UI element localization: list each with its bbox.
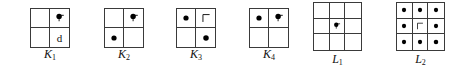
grid-cell: [330, 19, 346, 35]
grid-cell: [397, 3, 413, 19]
caption-subscript: 4: [271, 53, 275, 62]
grid-cell: [250, 28, 269, 47]
grid-cell: [314, 19, 330, 35]
figure-caption-l2: L2: [396, 52, 445, 67]
figure-k2: K2: [104, 0, 144, 68]
figure-caption-l1: L1: [313, 52, 362, 67]
grid-k3: [176, 8, 216, 48]
grid-k1: d: [30, 8, 70, 48]
figure-l1: L1: [313, 0, 362, 68]
caption-subscript: 2: [126, 53, 130, 62]
grid-cell: d: [50, 28, 69, 47]
grid-cell: [31, 9, 50, 28]
grid-cell: [397, 19, 413, 35]
grid-cell: [428, 19, 444, 35]
caption-base: K: [44, 47, 52, 61]
caption-base: K: [118, 47, 126, 61]
grid-cell: [196, 28, 215, 47]
figure-caption-k3: K3: [176, 47, 216, 62]
grid-k4: [249, 8, 289, 48]
grid-cell: [50, 9, 69, 28]
dot-icon: [428, 3, 444, 18]
dot-flag-icon: [124, 9, 143, 27]
caption-base: L: [415, 52, 422, 66]
corner-hook-icon: [413, 19, 428, 34]
caption-base: K: [190, 47, 198, 61]
dot-icon: [428, 19, 444, 34]
grid-cell: [105, 9, 124, 28]
grid-cell: [397, 34, 413, 50]
dot-icon: [177, 9, 195, 27]
grid-cell: [124, 28, 143, 47]
grid-cell: [330, 3, 346, 19]
dot-icon: [105, 28, 123, 47]
dot-flag-icon: [330, 19, 345, 34]
dot-icon: [413, 34, 428, 50]
grid-cell: [196, 9, 215, 28]
dot-icon: [413, 3, 428, 18]
caption-base: L: [332, 52, 339, 66]
caption-subscript: 1: [339, 58, 343, 67]
grid-k2: [104, 8, 144, 48]
caption-subscript: 2: [422, 58, 426, 67]
dot-icon: [428, 34, 444, 50]
figure-k3: K3: [176, 0, 216, 68]
corner-hook-icon: [196, 9, 215, 27]
grid-cell: [413, 34, 429, 50]
figure-caption-k1: K1: [30, 47, 70, 62]
grid-cell: [345, 19, 361, 35]
grid-cell: [177, 9, 196, 28]
dot-icon: [250, 9, 268, 27]
grid-cell: [413, 3, 429, 19]
dot-flag-icon: [50, 9, 69, 27]
figure-row: dK1K2K3K4L1L2: [0, 0, 461, 68]
cell-letter: d: [57, 32, 63, 43]
figure-l2: L2: [396, 0, 445, 68]
dot-icon: [397, 34, 412, 50]
caption-subscript: 1: [52, 53, 56, 62]
grid-cell: [428, 34, 444, 50]
grid-cell: [269, 9, 288, 28]
figure-k4: K4: [249, 0, 289, 68]
dot-flag-icon: [269, 9, 288, 27]
grid-cell: [413, 19, 429, 35]
grid-cell: [314, 3, 330, 19]
caption-base: K: [263, 47, 271, 61]
grid-cell: [250, 9, 269, 28]
grid-cell: [330, 34, 346, 50]
grid-cell: [345, 3, 361, 19]
grid-cell: [269, 28, 288, 47]
dot-icon: [397, 3, 412, 18]
figure-caption-k4: K4: [249, 47, 289, 62]
figure-k1: dK1: [30, 0, 70, 68]
grid-cell: [428, 3, 444, 19]
grid-cell: [124, 9, 143, 28]
grid-cell: [314, 34, 330, 50]
dot-icon: [196, 28, 215, 47]
grid-cell: [31, 28, 50, 47]
caption-subscript: 3: [198, 53, 202, 62]
grid-cell: [105, 28, 124, 47]
dot-icon: [397, 19, 412, 34]
grid-cell: [177, 28, 196, 47]
grid-l1: [313, 2, 362, 51]
grid-l2: [396, 2, 445, 51]
grid-cell: [345, 34, 361, 50]
figure-caption-k2: K2: [104, 47, 144, 62]
